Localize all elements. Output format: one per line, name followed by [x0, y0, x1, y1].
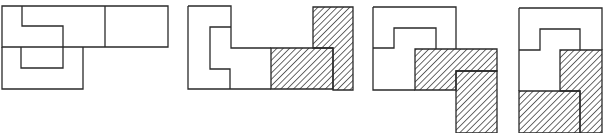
tiling-diagram: [0, 0, 603, 133]
panel-4: [519, 8, 602, 133]
outline-segment: [210, 27, 231, 89]
panel-1: [2, 6, 168, 89]
hatched-piece: [271, 48, 333, 89]
panel-2: [188, 6, 353, 90]
outline-segment: [519, 29, 580, 50]
panels-group: [2, 6, 602, 133]
hatched-piece: [456, 71, 497, 133]
outline-segment: [21, 6, 63, 68]
outline-segment: [373, 28, 436, 49]
panel-3: [373, 7, 497, 133]
hatched-piece: [519, 91, 580, 133]
